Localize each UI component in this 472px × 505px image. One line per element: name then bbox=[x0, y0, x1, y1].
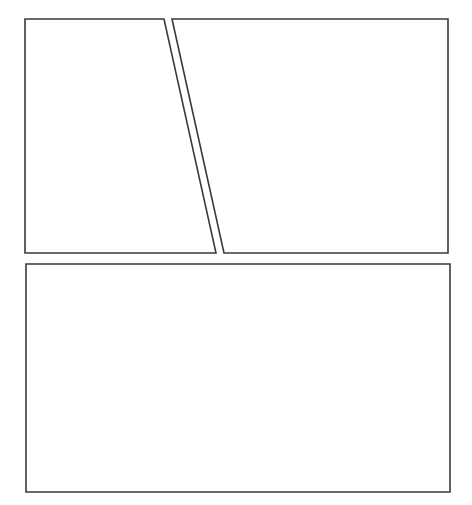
comic-page bbox=[0, 0, 472, 505]
panel-top-right bbox=[172, 19, 448, 253]
panel-bottom bbox=[26, 264, 450, 492]
